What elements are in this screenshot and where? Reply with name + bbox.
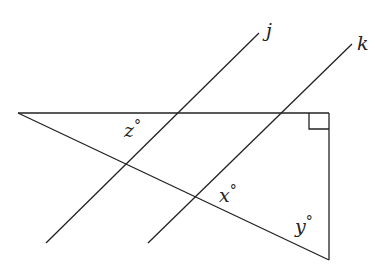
label-j: j [262, 19, 272, 41]
angle-label-z: z° [123, 117, 141, 141]
geometry-diagram: j k z° x° y° [0, 0, 375, 268]
diagram-svg: j k z° x° y° [0, 0, 375, 268]
angle-label-x: x° [219, 182, 237, 206]
degree-symbol: ° [230, 182, 237, 198]
angle-y-variable: y [294, 215, 306, 237]
degree-symbol: ° [134, 117, 141, 133]
triangle-hypotenuse [18, 113, 329, 260]
label-k: k [357, 32, 369, 54]
angle-label-y: y° [294, 213, 313, 237]
degree-symbol: ° [306, 213, 313, 229]
right-angle-marker [309, 113, 329, 129]
angle-x-variable: x [219, 184, 230, 206]
parallel-line-k [148, 44, 352, 243]
